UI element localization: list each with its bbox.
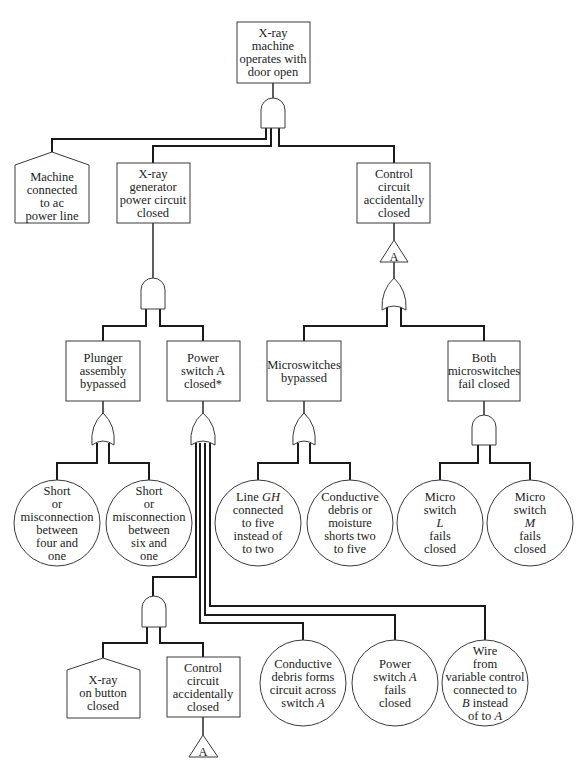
wire-or-to-shortfour (57, 443, 97, 480)
or-gate-control (382, 278, 406, 310)
wire-or-to-shortsix (109, 443, 149, 480)
wire-or-to-moisture (310, 443, 350, 480)
wire-or-to-linegh (258, 443, 298, 480)
fault-tree-diagram: X-raymachineoperates withdoor openMachin… (0, 0, 585, 770)
label-machine-ac: Machineconnectedto acpower line (25, 170, 79, 223)
wire-and-to-generator (153, 128, 271, 163)
label-transfer-a-top: A (389, 250, 398, 264)
wire-and-to-control (279, 128, 394, 163)
and-gate-bothmicro (472, 415, 496, 445)
wire-or-to-bothmicro (401, 305, 484, 341)
wire-or-to-microbypassed (304, 305, 387, 341)
wire-and-to-microl (440, 445, 478, 480)
wire-and-to-machine (52, 128, 266, 152)
and-gate-generator (141, 278, 165, 309)
or-gate-plunger (92, 413, 115, 445)
wire-and-to-microm (490, 445, 530, 480)
label-transfer-a-bottom: A (198, 745, 207, 759)
wire-and-to-control2 (160, 627, 203, 657)
wire-and-to-plunger (103, 309, 146, 341)
and-gate-top (261, 98, 285, 128)
label-plunger: Plungerassemblybypassed (80, 351, 127, 391)
wire-and-to-powerswitch (160, 309, 203, 341)
or-gate-powerswitch (191, 413, 216, 445)
label-switch-fails: Powerswitch Afailsclosed (373, 657, 417, 710)
and-gate-button (142, 596, 166, 627)
or-gate-microbypassed (293, 413, 316, 445)
wire-and-to-xraybutton (103, 627, 147, 658)
label-power-switch: Powerswitch Aclosed* (181, 351, 225, 391)
